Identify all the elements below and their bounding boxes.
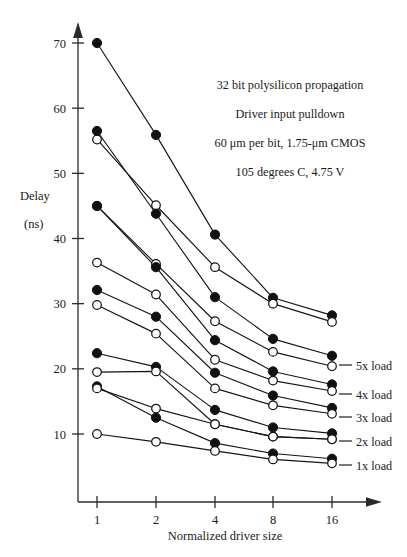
data-point-filled <box>210 230 219 239</box>
x-tick-label: 2 <box>153 513 159 527</box>
data-point-open <box>328 435 337 444</box>
data-point-filled <box>268 367 277 376</box>
legend-label: 3x load <box>356 411 392 425</box>
data-point-open <box>152 367 161 376</box>
data-point-open <box>269 432 278 441</box>
data-point-open <box>269 376 278 385</box>
data-point-open <box>152 290 161 299</box>
data-point-filled <box>92 285 101 294</box>
data-point-filled <box>151 263 160 272</box>
data-point-open <box>93 301 102 310</box>
data-point-open <box>93 368 102 377</box>
data-point-open <box>211 384 220 393</box>
y-tick-label: 40 <box>54 232 67 246</box>
x-tick-label: 4 <box>212 513 219 527</box>
annotation-line: 60 μm per bit, 1.75-μm CMOS <box>215 136 366 150</box>
series-layer <box>92 38 336 467</box>
data-point-filled <box>92 349 101 358</box>
data-point-open <box>211 420 220 429</box>
data-point-open <box>152 201 161 210</box>
annotation-line: Driver input pulldown <box>236 107 345 121</box>
data-point-open <box>211 447 220 456</box>
delay-vs-driver-size-chart: 10203040506070 124816 5x load4x load3x l… <box>0 0 407 557</box>
y-axis-title-line2: (ns) <box>24 217 43 231</box>
x-tick-label: 1 <box>94 513 100 527</box>
data-point-filled <box>210 368 219 377</box>
data-point-filled <box>151 130 160 139</box>
data-point-open <box>328 459 337 468</box>
data-point-open <box>152 329 161 338</box>
data-point-filled <box>210 405 219 414</box>
data-point-open <box>93 135 102 144</box>
data-point-filled <box>268 423 277 432</box>
data-point-open <box>269 299 278 308</box>
x-axis-arrowhead <box>366 497 382 507</box>
data-point-open <box>93 384 102 393</box>
y-tick-label: 20 <box>54 362 67 376</box>
data-point-filled <box>151 312 160 321</box>
data-point-open <box>328 362 337 371</box>
data-point-filled <box>92 201 101 210</box>
data-point-open <box>152 404 161 413</box>
y-tick-label: 60 <box>54 102 67 116</box>
data-point-filled <box>151 209 160 218</box>
y-tick-label: 70 <box>54 37 67 51</box>
data-point-open <box>269 348 278 357</box>
data-point-filled <box>210 293 219 302</box>
legend-label: 2x load <box>356 435 392 449</box>
legend-group: 5x load4x load3x load2x load1x load <box>339 359 392 473</box>
data-point-open <box>93 430 102 439</box>
y-tick-label: 10 <box>54 428 67 442</box>
data-point-filled <box>92 126 101 135</box>
x-tick-label: 16 <box>326 513 339 527</box>
data-point-open <box>211 355 220 364</box>
data-point-filled <box>268 334 277 343</box>
annotation-line: 105 degrees C, 4.75 V <box>236 165 345 179</box>
x-axis-title: Normalized driver size <box>168 529 283 543</box>
data-point-filled <box>92 38 101 47</box>
data-point-filled <box>210 336 219 345</box>
annotation-line: 32 bit polysilicon propagation <box>217 78 364 92</box>
data-point-open <box>328 318 337 327</box>
y-tick-label: 30 <box>54 297 67 311</box>
y-tick-label: 50 <box>54 167 67 181</box>
legend-label: 1x load <box>356 459 392 473</box>
data-point-open <box>93 258 102 267</box>
legend-label: 5x load <box>356 359 392 373</box>
data-point-filled <box>327 351 336 360</box>
chart-figure: 10203040506070 124816 5x load4x load3x l… <box>0 0 407 557</box>
y-axis-arrowhead <box>73 22 83 38</box>
data-point-open <box>211 263 220 272</box>
data-point-open <box>211 317 220 326</box>
data-point-open <box>328 410 337 419</box>
data-point-open <box>269 455 278 464</box>
x-tick-label: 8 <box>270 513 276 527</box>
x-tick-group: 124816 <box>94 496 338 527</box>
y-tick-group: 10203040506070 <box>54 37 85 442</box>
annotation-block: 32 bit polysilicon propagationDriver inp… <box>215 78 366 179</box>
data-point-filled <box>268 391 277 400</box>
legend-label: 4x load <box>356 388 392 402</box>
y-axis-title-line1: Delay <box>20 189 51 203</box>
data-point-open <box>152 438 161 447</box>
data-point-open <box>269 401 278 410</box>
data-point-open <box>328 387 337 396</box>
data-point-filled <box>151 413 160 422</box>
